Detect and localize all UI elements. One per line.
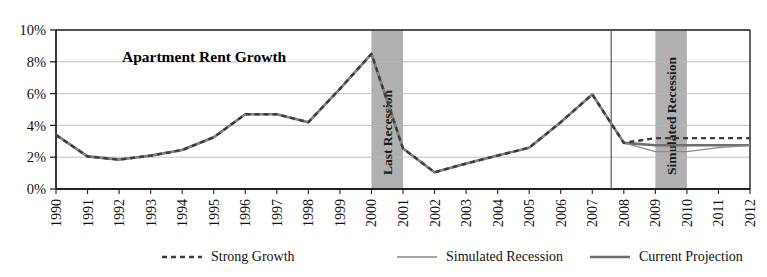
xtick-label-16: 2006 xyxy=(554,199,569,227)
xtick-label-12: 2002 xyxy=(428,199,443,227)
xtick-label-15: 2005 xyxy=(522,199,537,227)
xtick-label-1: 1991 xyxy=(81,199,96,227)
xtick-label-14: 2004 xyxy=(491,199,506,227)
xtick-label-2: 1992 xyxy=(112,199,127,227)
xtick-label-8: 1998 xyxy=(301,199,316,227)
xtick-label-5: 1995 xyxy=(207,199,222,227)
xtick-label-0: 1990 xyxy=(49,199,64,227)
ytick-label-3: 6% xyxy=(27,86,46,102)
recession-band-label-2: Simulated Recession xyxy=(664,56,679,175)
xtick-label-22: 2012 xyxy=(743,199,758,227)
legend-label-3: Current Projection xyxy=(639,249,743,264)
xtick-label-20: 2010 xyxy=(680,199,695,227)
legend-label-2: Simulated Recession xyxy=(446,249,563,264)
xtick-label-19: 2009 xyxy=(648,199,663,227)
xtick-label-11: 2001 xyxy=(396,199,411,227)
ytick-label-0: 0% xyxy=(27,181,46,197)
xtick-label-18: 2008 xyxy=(617,199,632,227)
xtick-label-17: 2007 xyxy=(585,199,600,227)
ytick-label-5: 10% xyxy=(19,22,46,38)
ytick-label-2: 4% xyxy=(27,118,46,134)
xtick-label-21: 2011 xyxy=(711,199,726,226)
xtick-label-6: 1996 xyxy=(238,199,253,227)
xtick-label-10: 2000 xyxy=(364,199,379,227)
chart-canvas: 0%2%4%6%8%10%Last RecessionSimulated Rec… xyxy=(0,0,767,277)
xtick-label-3: 1993 xyxy=(144,199,159,227)
ytick-label-1: 2% xyxy=(27,149,46,165)
xtick-label-9: 1999 xyxy=(333,199,348,227)
ytick-label-4: 8% xyxy=(27,54,46,70)
apartment-rent-growth-chart: 0%2%4%6%8%10%Last RecessionSimulated Rec… xyxy=(0,0,767,277)
xtick-label-7: 1997 xyxy=(270,199,285,227)
xtick-label-13: 2003 xyxy=(459,199,474,227)
xtick-label-4: 1994 xyxy=(175,199,190,227)
legend-label-1: Strong Growth xyxy=(211,249,295,264)
chart-title: Apartment Rent Growth xyxy=(122,48,287,65)
